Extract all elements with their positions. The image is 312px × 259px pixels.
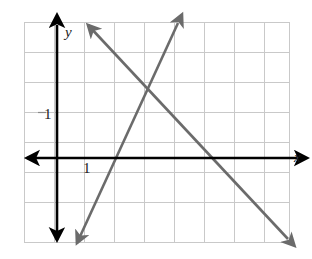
coordinate-plane-svg [0,0,312,259]
y-axis-unit-label: 1 [44,107,52,122]
graph-figure: y x 1 1 [0,0,312,259]
x-axis-label: x [294,150,301,165]
x-axis-unit-label: 1 [83,161,91,176]
grid-background [24,22,290,243]
y-axis-label: y [65,25,72,40]
